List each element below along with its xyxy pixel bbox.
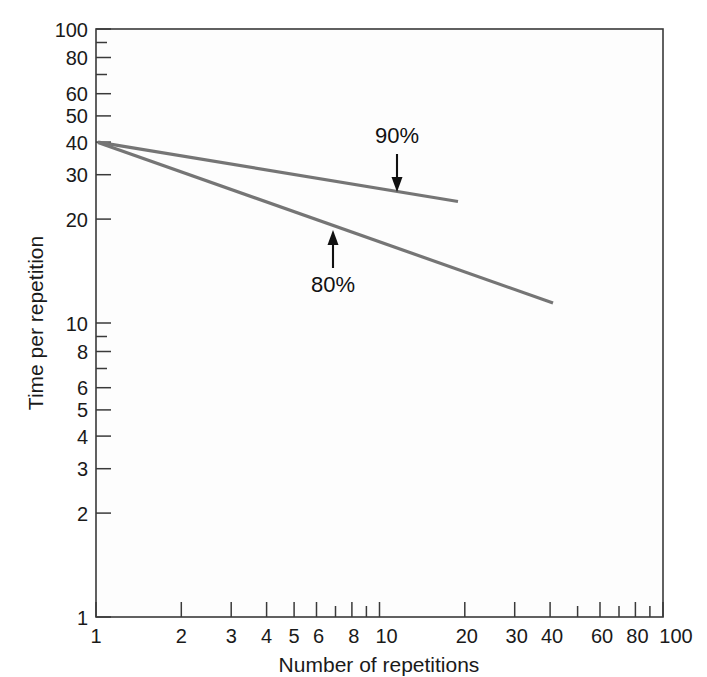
- x-label-5: 5: [289, 625, 300, 647]
- x-label-100: 100: [659, 625, 692, 647]
- x-axis-tick-labels: 1 2 3 4 5 6 8 10 20 30 40 60 80 100: [90, 625, 692, 647]
- y-label-2: 2: [77, 503, 88, 525]
- x-label-40: 40: [541, 625, 563, 647]
- plot-frame: [96, 29, 663, 617]
- x-label-6: 6: [313, 625, 324, 647]
- y-label-50: 50: [66, 105, 88, 127]
- y-label-60: 60: [66, 83, 88, 105]
- y-label-20: 20: [66, 209, 88, 231]
- x-label-80: 80: [626, 625, 648, 647]
- y-label-8: 8: [77, 341, 88, 363]
- annotation-label-80pct: 80%: [311, 272, 355, 297]
- y-label-6: 6: [77, 377, 88, 399]
- x-label-8: 8: [348, 625, 359, 647]
- x-label-60: 60: [591, 625, 613, 647]
- y-label-4: 4: [77, 426, 88, 448]
- y-axis-title: Time per repetition: [24, 236, 47, 410]
- y-label-10: 10: [66, 313, 88, 335]
- y-axis-tick-labels: 100 80 60 50 40 30 20 10 8 6 5 4 3 2 1: [55, 19, 88, 629]
- y-label-40: 40: [66, 132, 88, 154]
- x-label-30: 30: [506, 625, 528, 647]
- y-label-5: 5: [77, 399, 88, 421]
- x-label-2: 2: [176, 625, 187, 647]
- chart-canvas: 100 80 60 50 40 30 20 10 8 6 5 4 3 2 1: [0, 0, 707, 677]
- x-label-4: 4: [261, 625, 272, 647]
- x-label-1: 1: [90, 625, 101, 647]
- x-label-3: 3: [226, 625, 237, 647]
- y-label-1: 1: [77, 607, 88, 629]
- y-label-100: 100: [55, 19, 88, 41]
- x-label-10: 10: [375, 625, 397, 647]
- annotation-label-90pct: 90%: [375, 123, 419, 148]
- x-axis-title: Number of repetitions: [279, 653, 480, 676]
- x-label-20: 20: [456, 625, 478, 647]
- y-label-30: 30: [66, 164, 88, 186]
- learning-curve-chart: 100 80 60 50 40 30 20 10 8 6 5 4 3 2 1: [0, 0, 707, 677]
- y-label-3: 3: [77, 458, 88, 480]
- y-label-80: 80: [66, 47, 88, 69]
